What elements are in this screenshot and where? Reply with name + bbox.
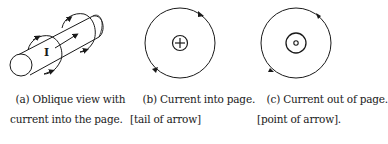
panel-a-oblique-wire — [10, 14, 103, 76]
current-label-I: I — [44, 46, 49, 59]
panel-c-current-out-of-page — [261, 8, 331, 78]
caption-a-line1: (a) Oblique view with — [16, 93, 126, 105]
caption-c-line1: (c) Current out of page. — [267, 93, 388, 105]
caption-b: (b) Current into page. [tail of arrow] — [130, 84, 255, 144]
caption-a-line2: current into the page. — [3, 114, 125, 124]
caption-c-line2: [point of arrow]. — [254, 114, 388, 124]
cylinder-front-end — [10, 54, 32, 76]
caption-b-line1: (b) Current into page. — [143, 93, 255, 105]
caption-b-line2: [tail of arrow] — [130, 114, 255, 124]
field-line-circle-c — [261, 8, 331, 78]
point-of-arrow-symbol — [286, 33, 306, 53]
caption-a: (a) Oblique view with current into the p… — [3, 84, 125, 144]
panel-b-current-into-page — [145, 8, 215, 78]
cylinder-top-edge — [16, 16, 93, 56]
field-loop-2 — [62, 14, 95, 52]
arrowhead-b-top-right — [198, 11, 204, 17]
caption-c: (c) Current out of page. [point of arrow… — [254, 84, 388, 144]
